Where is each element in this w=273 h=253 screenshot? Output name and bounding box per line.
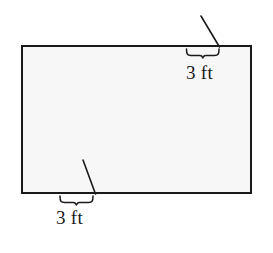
main-rectangle [22,46,251,193]
bottom-dimension-label: 3 ft [56,208,83,227]
geometry-figure: 3 ft 3 ft [0,0,273,253]
top-dimension-label: 3 ft [186,63,213,82]
top-leader-line [201,16,220,47]
figure-canvas [0,0,273,253]
bottom-brace-icon [60,196,93,205]
